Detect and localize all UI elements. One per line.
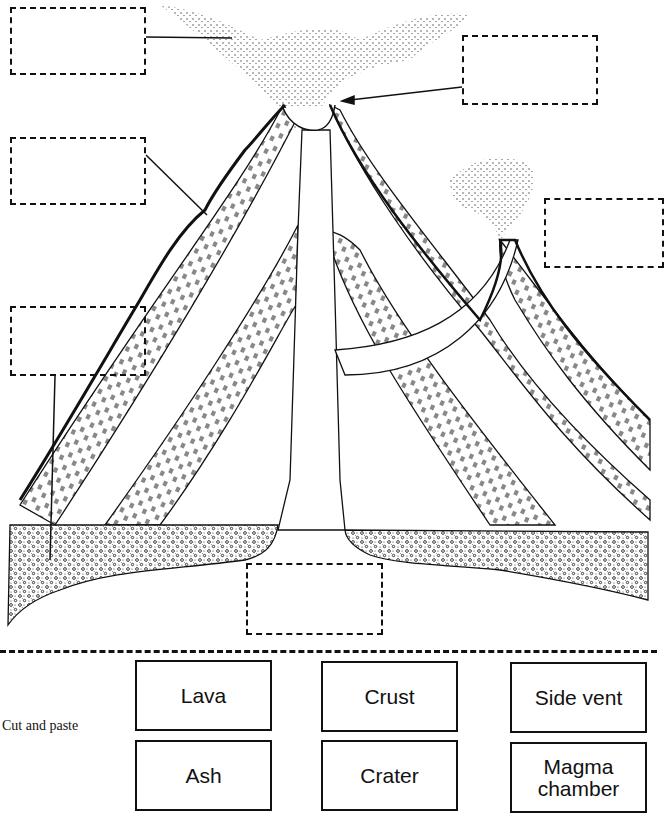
answer-box-lava[interactable] — [10, 137, 146, 205]
card-ash[interactable]: Ash — [135, 740, 272, 811]
cut-line — [0, 650, 657, 653]
cut-and-paste-label: Cut and paste — [2, 718, 78, 734]
card-side-vent[interactable]: Side vent — [510, 662, 647, 733]
card-crust[interactable]: Crust — [321, 661, 458, 732]
card-magma-chamber[interactable]: Magma chamber — [510, 742, 647, 813]
answer-box-crust[interactable] — [10, 306, 146, 376]
answer-box-side-vent[interactable] — [544, 198, 664, 268]
crust-left — [8, 525, 278, 625]
card-lava[interactable]: Lava — [135, 660, 272, 731]
crust-right — [345, 530, 648, 600]
answer-box-crater[interactable] — [462, 35, 598, 105]
card-crater[interactable]: Crater — [321, 740, 458, 811]
main-vent — [278, 130, 345, 530]
answer-box-ash[interactable] — [10, 7, 146, 75]
answer-box-magma-chamber[interactable] — [246, 563, 383, 635]
